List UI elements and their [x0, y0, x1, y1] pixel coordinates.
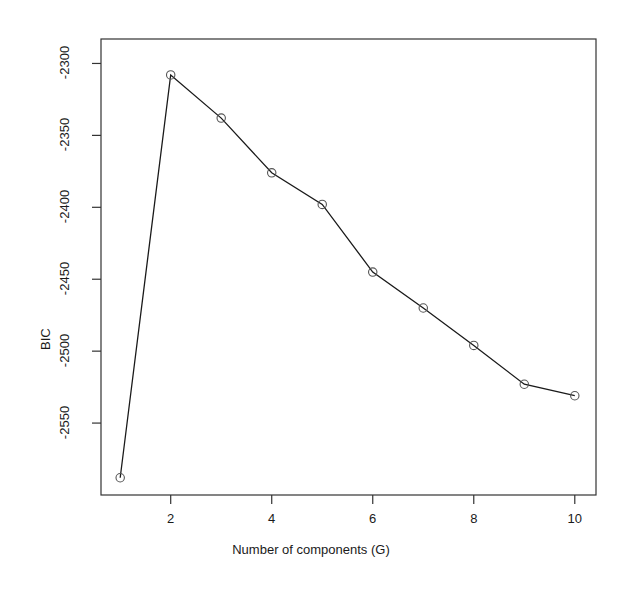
x-tick-label: 4 — [252, 511, 292, 526]
y-tick-label: -2300 — [57, 35, 72, 91]
y-tick-label: -2350 — [57, 107, 72, 163]
x-tick-label: 2 — [151, 511, 191, 526]
x-tick-label: 10 — [555, 511, 595, 526]
y-tick-label: -2500 — [57, 323, 72, 379]
y-axis-title: BIC — [38, 190, 53, 350]
bic-line-chart: 246810 -2300-2350-2400-2450-2500-2550 Nu… — [0, 0, 622, 589]
x-tick-label: 6 — [353, 511, 393, 526]
y-axis-title-container: BIC — [38, 270, 54, 286]
y-tick-label: -2450 — [57, 251, 72, 307]
y-tick-label: -2550 — [57, 395, 72, 451]
plot-canvas — [0, 0, 622, 589]
x-axis-title: Number of components (G) — [0, 542, 622, 557]
chart-page: 246810 -2300-2350-2400-2450-2500-2550 Nu… — [0, 0, 622, 589]
x-tick-label: 8 — [454, 511, 494, 526]
y-tick-label: -2400 — [57, 179, 72, 235]
chart-background — [0, 0, 622, 589]
